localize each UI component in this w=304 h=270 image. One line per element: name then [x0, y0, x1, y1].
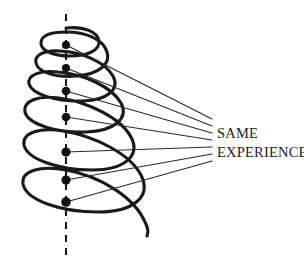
leader-lines-group [66, 45, 212, 202]
crossing-dot-4 [62, 113, 71, 122]
helix-spiral-path [23, 28, 148, 236]
crossing-dot-7 [61, 197, 71, 207]
helix-curve-group [23, 28, 148, 236]
label-experience-text: EXPERIENCE [217, 145, 304, 160]
crossing-dot-6 [61, 175, 70, 184]
crossing-dot-5 [61, 147, 70, 156]
crossing-dot-2 [62, 64, 70, 72]
crossing-dot-3 [62, 87, 71, 96]
diagram-canvas: SAME EXPERIENCE [0, 0, 304, 270]
leader-line-1 [66, 45, 212, 119]
spiral-diagram-svg [0, 0, 304, 270]
crossing-dot-1 [62, 41, 70, 49]
label-same-text: SAME [217, 126, 258, 141]
leader-line-5 [66, 147, 212, 152]
